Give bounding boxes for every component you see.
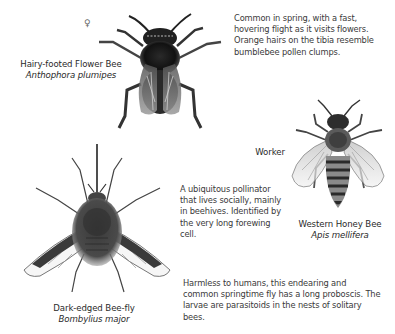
flower-bee-label: Hairy-footed Flower Bee Anthophora plumi… [10,59,132,81]
female-symbol: ♀ [84,18,91,28]
bee-fly-label: Dark-edged Bee-fly Bombylius major [34,303,154,325]
honey-bee-common-name: Western Honey Bee [290,219,390,230]
bee-fly-scientific-name: Bombylius major [34,314,154,325]
honey-bee-description: A ubiquitous pollinator that lives socia… [180,184,288,240]
flower-bee-description: Common in spring, with a fast, hovering … [234,13,384,58]
honey-bee-caste-label: Worker [253,147,287,158]
flower-bee-common-name: Hairy-footed Flower Bee [10,59,132,70]
honey-bee-illustration [288,96,388,220]
bee-fly-description: Harmless to humans, this endearing and c… [183,278,383,323]
bee-fly-illustration [18,142,178,302]
honey-bee-label: Western Honey Bee Apis mellifera [290,219,390,241]
bee-fly-common-name: Dark-edged Bee-fly [34,303,154,314]
honey-bee-scientific-name: Apis mellifera [290,230,390,241]
flower-bee-scientific-name: Anthophora plumipes [10,70,132,81]
